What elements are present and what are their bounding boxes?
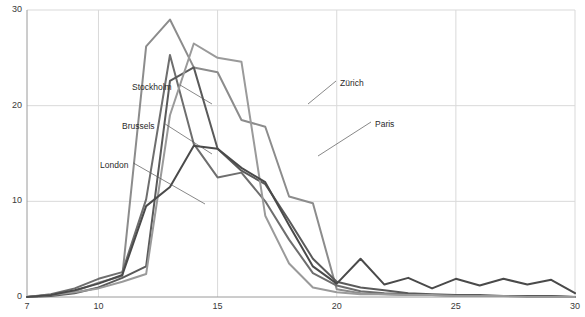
x-tick-label: 10	[78, 301, 118, 311]
annotation-leader-line	[318, 122, 371, 156]
x-tick-label: 20	[317, 301, 357, 311]
annotation-label-brussels: Brussels	[122, 121, 155, 131]
axis-lines-group	[27, 10, 575, 297]
y-tick-label: 30	[0, 4, 22, 14]
x-tick-label: 7	[7, 301, 47, 311]
annotation-leader-line	[308, 81, 336, 104]
annotation-leader-line	[133, 163, 205, 204]
annotation-leader-line	[180, 85, 212, 104]
x-tick-label: 25	[436, 301, 476, 311]
x-tick-label: 15	[198, 301, 238, 311]
annotation-label-london: London	[100, 160, 128, 170]
y-tick-label: 0	[0, 291, 22, 301]
x-tick-label: 30	[555, 301, 585, 311]
series-line-zrich	[27, 43, 575, 297]
y-tick-label: 10	[0, 195, 22, 205]
gridlines-group	[27, 10, 575, 297]
series-line-london	[27, 67, 575, 297]
annotation-label-zrich: Zürich	[340, 78, 364, 88]
y-tick-label: 20	[0, 100, 22, 110]
annotation-label-stockholm: Stockholm	[132, 82, 172, 92]
series-line-brussels	[27, 55, 575, 297]
data-series-group	[27, 20, 575, 297]
annotation-leader-line	[165, 124, 212, 154]
annotation-label-paris: Paris	[375, 119, 394, 129]
